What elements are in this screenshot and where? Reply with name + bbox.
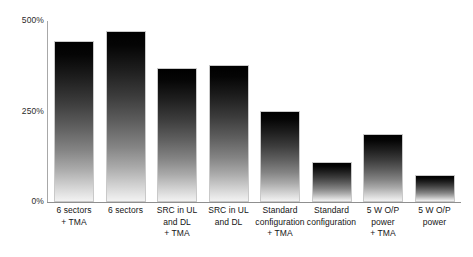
- bar[interactable]: [209, 65, 249, 202]
- x-axis-category-label: 6 sectors: [98, 205, 154, 217]
- bar-slot: [312, 21, 352, 202]
- bar[interactable]: [54, 41, 94, 202]
- bar-slot: [54, 21, 94, 202]
- plot-area: [48, 21, 461, 202]
- bar-slot: [106, 21, 146, 202]
- y-axis-tick-label: 250%: [2, 107, 44, 116]
- bar-chart: 0%250%500% 6 sectors + TMA6 sectorsSRC i…: [0, 0, 473, 257]
- y-axis-tick-labels: 0%250%500%: [0, 0, 44, 257]
- bar-slot: [260, 21, 300, 202]
- x-axis-category-label: SRC in UL and DL + TMA: [149, 205, 205, 240]
- x-axis-category-label: Standard configuration: [304, 205, 360, 228]
- x-axis-category-labels: 6 sectors + TMA6 sectorsSRC in UL and DL…: [48, 205, 461, 257]
- bar-slot: [415, 21, 455, 202]
- x-axis-line: [47, 202, 461, 203]
- bar-slot: [209, 21, 249, 202]
- bar[interactable]: [312, 162, 352, 202]
- bar-slot: [157, 21, 197, 202]
- x-axis-category-label: Standard configuration + TMA: [252, 205, 308, 240]
- y-axis-tick-label: 500%: [2, 16, 44, 25]
- bar[interactable]: [157, 68, 197, 202]
- x-axis-category-label: 6 sectors + TMA: [46, 205, 102, 228]
- bar[interactable]: [415, 175, 455, 202]
- bar-slot: [363, 21, 403, 202]
- bar[interactable]: [106, 31, 146, 202]
- x-axis-category-label: 5 W O/P power: [407, 205, 463, 228]
- y-axis-tick-label: 0%: [2, 197, 44, 206]
- x-axis-category-label: SRC in UL and DL: [201, 205, 257, 228]
- x-axis-category-label: 5 W O/P power + TMA: [355, 205, 411, 240]
- bar[interactable]: [363, 134, 403, 202]
- bar[interactable]: [260, 111, 300, 202]
